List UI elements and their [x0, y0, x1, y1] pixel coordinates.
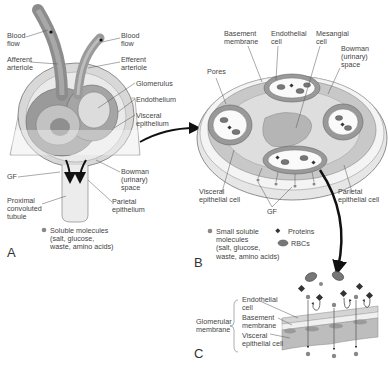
flow-arrow: [49, 30, 52, 33]
label-endothelial-cell-c: Endothelial cell: [242, 296, 278, 312]
glomerular-filtration-figure: Blood flow Afferent arteriole Blood flow…: [0, 0, 388, 369]
label-blood-flow-efferent: Blood flow: [121, 32, 139, 48]
label-bowman-space-a: Bowman (urinary) space: [121, 168, 149, 193]
soluble-molecule-icon: [42, 228, 47, 233]
label-bowman-space-b: Bowman (urinary) space: [341, 45, 369, 70]
panel-letter-c: C: [194, 346, 203, 361]
label-glomerular-membrane: Glomerular membrane: [196, 318, 232, 334]
flow-arrow: [99, 38, 102, 41]
label-visceral-epithelial-cell-b: Visceral epithelial cell: [199, 188, 240, 204]
a-to-b-arrow: [140, 128, 195, 142]
label-visceral-epithelial-cell-c: Visceral epithelial cell: [242, 332, 283, 348]
label-endothelial-cell-b: Endothelial cell: [271, 30, 307, 46]
proximal-tubule: [62, 165, 88, 222]
small-soluble-molecule-icon: [208, 229, 213, 234]
legend-b-rbcs: RBCs: [291, 240, 310, 248]
legend-a-soluble-molecules: Soluble molecules (salt, glucose, waste,…: [50, 227, 114, 252]
panel-letter-b: B: [194, 255, 203, 270]
capillary-bottom: [263, 146, 327, 174]
label-efferent-arteriole: Efferent arteriole: [121, 56, 147, 72]
label-glomerulus: Glomerulus: [136, 80, 173, 88]
legend-b-small-soluble-molecules: Small soluble molecules (salt, glucose, …: [216, 228, 280, 261]
diagram-canvas: [0, 0, 388, 369]
label-proximal-tubule: Proximal convoluted tubule: [7, 197, 42, 222]
panel-letter-a: A: [7, 245, 16, 260]
legend-b-proteins: Proteins: [288, 228, 314, 236]
label-parietal-epithelium: Parietal epithelium: [112, 198, 145, 214]
label-afferent-arteriole: Afferent arteriole: [7, 56, 33, 72]
label-visceral-epithelium: Visceral epithelium: [136, 112, 169, 128]
label-endothelium: Endothelium: [136, 96, 176, 104]
label-parietal-epithelial-cell: Parietal epithelial cell: [338, 188, 379, 204]
rbc: [304, 271, 318, 283]
label-blood-flow-afferent: Blood flow: [7, 32, 25, 48]
capillary-right: [323, 104, 363, 140]
rbc: [331, 270, 345, 282]
capillary-left: [208, 105, 252, 145]
capillary-top: [264, 74, 320, 102]
label-gf-a: GF: [7, 173, 17, 181]
label-pores: Pores: [207, 68, 226, 76]
label-basement-membrane-c: Basement membrane: [242, 314, 276, 330]
label-basement-membrane-b: Basement membrane: [224, 30, 258, 46]
label-gf-b: GF: [267, 208, 277, 216]
capillary-lumen: [78, 92, 110, 128]
